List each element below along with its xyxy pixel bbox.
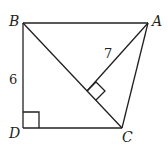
label-a: A (150, 13, 162, 29)
perpendicular-from-a (87, 23, 148, 91)
measure-bd: 6 (9, 72, 17, 87)
right-angle-marker-d (23, 112, 39, 128)
geometry-diagram: B A D C 6 7 (0, 0, 168, 146)
label-b: B (8, 13, 19, 29)
label-d: D (8, 125, 20, 141)
label-c: C (122, 129, 133, 145)
right-angle-marker-foot (87, 82, 105, 100)
measure-perpendicular: 7 (104, 46, 112, 61)
segment-ca (122, 23, 148, 128)
